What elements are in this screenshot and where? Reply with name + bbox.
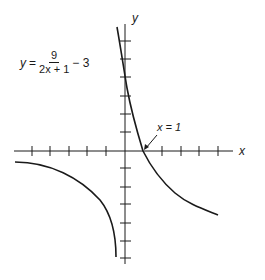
arrow-icon: [144, 135, 157, 150]
equation-tail: − 3: [72, 56, 89, 70]
equation-equals: =: [29, 56, 36, 70]
intercept-annotation-label: x = 1: [157, 122, 181, 133]
x-axis-label: x: [239, 145, 245, 157]
graph-figure: y = 9 2x + 1 − 3 y x x = 1: [0, 0, 265, 280]
equation-numerator: 9: [49, 50, 59, 63]
equation-fraction: 9 2x + 1: [39, 50, 69, 75]
graph-canvas: [0, 0, 265, 280]
equation-denominator: 2x + 1: [39, 63, 69, 75]
y-axis-label: y: [132, 12, 138, 24]
equation-lhs: y: [20, 56, 26, 70]
curve-left-branch: [15, 162, 116, 257]
equation-label: y = 9 2x + 1 − 3: [20, 50, 89, 75]
